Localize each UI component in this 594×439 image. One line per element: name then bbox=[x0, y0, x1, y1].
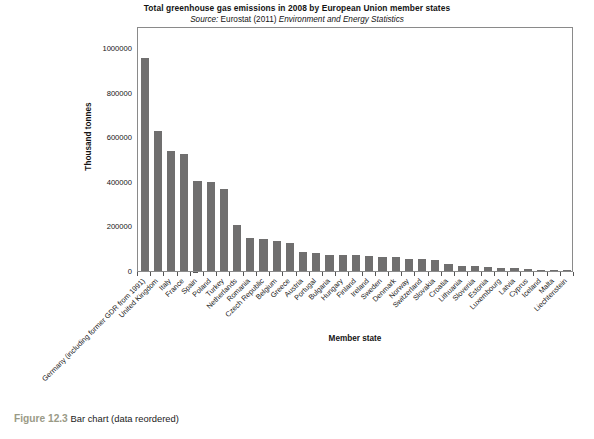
bar bbox=[220, 189, 228, 271]
bar bbox=[141, 58, 149, 271]
bar bbox=[484, 267, 492, 271]
bar bbox=[524, 269, 532, 271]
bar bbox=[312, 253, 320, 271]
bar bbox=[550, 270, 558, 271]
y-axis-title: Thousand tonnes bbox=[84, 77, 93, 197]
bar bbox=[510, 268, 518, 271]
y-tick-label: 600000 bbox=[107, 134, 132, 142]
bar bbox=[537, 270, 545, 271]
bar bbox=[352, 255, 360, 271]
bar bbox=[259, 239, 267, 271]
bar bbox=[418, 259, 426, 271]
bar bbox=[378, 257, 386, 271]
figure-caption: Figure 12.3 Bar chart (data reordered) bbox=[14, 412, 179, 425]
bar bbox=[431, 260, 439, 271]
bar bbox=[273, 241, 281, 271]
bar bbox=[405, 259, 413, 271]
bar bbox=[246, 238, 254, 271]
bar bbox=[471, 266, 479, 271]
y-axis: Thousand tonnes 020000040000060000080000… bbox=[60, 27, 132, 272]
bar bbox=[392, 257, 400, 271]
chart-title: Total greenhouse gas emissions in 2008 b… bbox=[0, 2, 594, 14]
chart-title-block: Total greenhouse gas emissions in 2008 b… bbox=[0, 2, 594, 26]
bar bbox=[299, 252, 307, 271]
bar bbox=[365, 256, 373, 271]
bar bbox=[325, 255, 333, 271]
bar bbox=[339, 255, 347, 271]
figure-caption-number: Figure 12.3 bbox=[14, 413, 68, 424]
bar bbox=[497, 268, 505, 271]
figure-caption-text: Bar chart (data reordered) bbox=[70, 413, 178, 424]
bar bbox=[286, 243, 294, 271]
subtitle-plain: Eurostat (2011) bbox=[218, 15, 278, 24]
y-tick-label: 1000000 bbox=[102, 45, 132, 53]
bar bbox=[180, 154, 188, 271]
subtitle-italic: Environment and Energy Statistics bbox=[279, 15, 404, 24]
plot-area bbox=[138, 28, 572, 271]
plot-frame bbox=[137, 27, 573, 272]
y-tick-label: 200000 bbox=[107, 223, 132, 231]
bar bbox=[233, 225, 241, 271]
bar bbox=[154, 131, 162, 271]
subtitle-source-word: Source: bbox=[190, 15, 218, 24]
bar bbox=[444, 264, 452, 271]
chart-subtitle: Source: Eurostat (2011) Environment and … bbox=[0, 14, 594, 26]
bar bbox=[207, 182, 215, 271]
bar bbox=[193, 181, 201, 271]
y-tick-label: 800000 bbox=[107, 90, 132, 98]
y-tick-label: 400000 bbox=[107, 179, 132, 187]
bar bbox=[563, 270, 571, 271]
x-axis-title: Member state bbox=[137, 334, 573, 343]
bar bbox=[167, 151, 175, 271]
bar bbox=[458, 266, 466, 271]
